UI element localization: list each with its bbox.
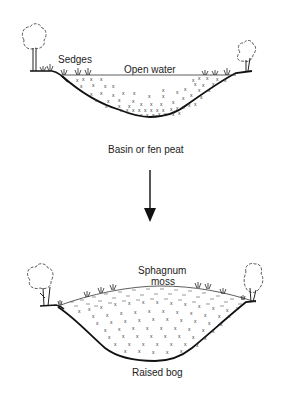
svg-text:x: x (92, 82, 95, 88)
label-sphagnum: Sphagnum (138, 266, 186, 276)
svg-text:x: x (104, 83, 107, 89)
svg-text:x: x (192, 334, 195, 340)
svg-text:x: x (132, 325, 135, 331)
svg-text:x: x (202, 82, 205, 88)
svg-text:x: x (204, 312, 207, 318)
svg-text:x: x (110, 319, 113, 325)
svg-text:x: x (212, 305, 215, 311)
svg-text:x: x (148, 308, 151, 314)
svg-text:x: x (132, 107, 135, 113)
svg-text:x: x (128, 300, 131, 306)
svg-text:x: x (190, 92, 193, 98)
svg-text:x: x (118, 326, 121, 332)
svg-text:x: x (78, 308, 81, 314)
svg-text:x: x (208, 320, 211, 326)
svg-text:x: x (194, 318, 197, 324)
raised-bog-diagram: xxxxxxxxxxxxx xxxxxxxxxxx xxxxxxxxxx xxx… (28, 263, 263, 361)
svg-text:x: x (120, 310, 123, 316)
svg-text:x: x (134, 309, 137, 315)
svg-text:x: x (184, 301, 187, 307)
svg-text:x: x (216, 76, 219, 82)
svg-text:x: x (114, 301, 117, 307)
svg-text:x: x (172, 99, 175, 105)
svg-text:x: x (170, 341, 173, 347)
svg-text:x: x (152, 316, 155, 322)
svg-text:x: x (142, 341, 145, 347)
svg-text:x: x (124, 318, 127, 324)
svg-text:x: x (128, 341, 131, 347)
svg-text:x: x (142, 299, 145, 305)
svg-text:x: x (184, 86, 187, 92)
svg-text:x: x (76, 77, 79, 83)
svg-text:x: x (180, 348, 183, 354)
svg-text:x: x (170, 300, 173, 306)
svg-text:x: x (206, 75, 209, 81)
svg-text:x: x (164, 333, 167, 339)
svg-text:x: x (156, 299, 159, 305)
svg-text:x: x (106, 312, 109, 318)
svg-text:x: x (178, 333, 181, 339)
svg-text:x: x (124, 348, 127, 354)
svg-text:x: x (122, 90, 125, 96)
svg-text:x: x (90, 91, 93, 97)
svg-text:x: x (184, 341, 187, 347)
svg-text:x: x (162, 87, 165, 93)
svg-text:x: x (80, 83, 83, 89)
svg-text:x: x (176, 89, 179, 95)
svg-text:x: x (104, 327, 107, 333)
tree-icon (28, 264, 53, 306)
peat-marks: xxxx xxxx xxxxx xxxxxx xxxxxxxx xxxxxxxx… (76, 75, 227, 118)
svg-text:x: x (122, 333, 125, 339)
peat-formation-diagram: xxxx xxxx xxxxx xxxxxx xxxxxxxx xxxxxxxx… (0, 0, 286, 398)
svg-text:x: x (138, 348, 141, 354)
svg-text:x: x (88, 306, 91, 312)
svg-text:x: x (133, 90, 136, 96)
svg-text:x: x (198, 87, 201, 93)
label-moss: moss (151, 277, 175, 287)
svg-text:x: x (166, 349, 169, 355)
svg-text:x: x (198, 75, 201, 81)
tree-icon (22, 24, 46, 71)
svg-text:x: x (166, 316, 169, 322)
svg-text:x: x (100, 304, 103, 310)
label-open-water: Open water (124, 65, 176, 75)
svg-text:x: x (82, 76, 85, 82)
svg-text:x: x (180, 317, 183, 323)
svg-text:x: x (174, 325, 177, 331)
svg-text:x: x (100, 76, 103, 82)
svg-text:x: x (96, 320, 99, 326)
svg-text:x: x (108, 334, 111, 340)
tree-icon (237, 40, 255, 71)
svg-text:x: x (146, 325, 149, 331)
svg-text:x: x (190, 310, 193, 316)
svg-text:x: x (194, 101, 197, 107)
svg-text:x: x (194, 81, 197, 87)
svg-text:x: x (136, 333, 139, 339)
svg-text:x: x (176, 309, 179, 315)
label-basin-fen-peat: Basin or fen peat (108, 145, 184, 155)
svg-text:x: x (112, 92, 115, 98)
svg-text:x: x (150, 333, 153, 339)
label-raised-bog: Raised bog (132, 368, 183, 378)
svg-text:x: x (182, 95, 185, 101)
svg-text:x: x (188, 326, 191, 332)
svg-text:x: x (120, 107, 123, 113)
svg-text:x: x (132, 98, 135, 104)
svg-text:x: x (160, 325, 163, 331)
svg-text:x: x (198, 303, 201, 309)
label-sedges: Sedges (58, 55, 92, 65)
svg-text:x: x (114, 341, 117, 347)
arrow-down-icon (144, 170, 156, 222)
svg-text:x: x (162, 93, 165, 99)
svg-text:x: x (156, 341, 159, 347)
svg-text:x: x (92, 313, 95, 319)
svg-text:x: x (152, 349, 155, 355)
svg-text:x: x (202, 327, 205, 333)
svg-text:x: x (112, 83, 115, 89)
svg-text:x: x (138, 317, 141, 323)
svg-text:x: x (162, 308, 165, 314)
svg-text:x: x (148, 93, 151, 99)
tree-icon (244, 263, 263, 302)
svg-text:x: x (100, 90, 103, 96)
svg-text:x: x (218, 313, 221, 319)
